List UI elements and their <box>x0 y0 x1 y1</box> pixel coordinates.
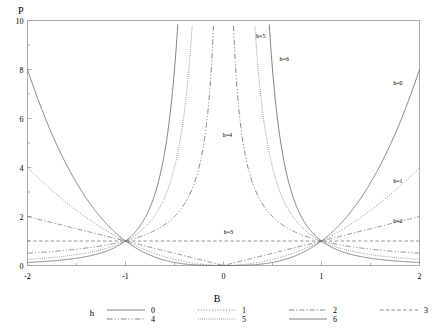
legend-label-5: 5 <box>242 315 246 324</box>
legend-label-4: 4 <box>151 315 155 324</box>
chart-canvas: P 0246810 -2-1012 h=5h=6h=0h=4h=1h=2h=3 … <box>0 0 434 333</box>
curve-label: h=5 <box>256 33 265 39</box>
legend-title: h <box>90 308 95 318</box>
y-tick-label: 4 <box>20 164 24 173</box>
x-tick-label: 0 <box>222 272 226 281</box>
legend-label-1: 1 <box>242 306 246 315</box>
y-tick-label: 8 <box>20 66 24 75</box>
curve-label: h=3 <box>224 229 233 235</box>
y-tick-label: 6 <box>20 115 24 124</box>
chart-figure: P 0246810 -2-1012 h=5h=6h=0h=4h=1h=2h=3 … <box>0 0 434 333</box>
x-tick-label: 2 <box>418 272 422 281</box>
curve-label: h=2 <box>393 218 402 224</box>
legend-label-0: 0 <box>151 306 155 315</box>
legend-label-2: 2 <box>333 306 337 315</box>
y-tick-label: 0 <box>20 262 24 271</box>
curve-label: h=6 <box>280 56 289 62</box>
y-axis-title: P <box>18 5 24 16</box>
x-axis-title: B <box>214 293 221 304</box>
x-tick-label: -1 <box>122 272 129 281</box>
y-tick-label: 2 <box>20 213 24 222</box>
curve-label: h=0 <box>393 80 402 86</box>
curve-label: h=1 <box>393 178 402 184</box>
y-tick-label: 10 <box>16 17 24 26</box>
x-tick-label: -2 <box>24 272 31 281</box>
curve-label: h=4 <box>223 132 232 138</box>
x-tick-label: 1 <box>320 272 324 281</box>
legend-label-3: 3 <box>424 306 428 315</box>
legend-label-6: 6 <box>333 315 337 324</box>
chart-background <box>0 0 434 333</box>
